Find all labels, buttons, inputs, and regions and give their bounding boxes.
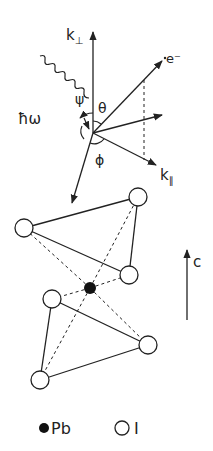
incidence-angle-arc [81, 126, 84, 139]
diagram-canvas: k⊥ e⁻ k∥ ħω ψ θ ϕ c Pb I [0, 0, 213, 451]
iodine-atom [15, 219, 33, 237]
legend-pb-symbol [39, 423, 49, 433]
psi-angle-arc [80, 113, 93, 118]
photon-energy-label: ħω [18, 110, 41, 128]
electron-label: e⁻ [166, 51, 181, 66]
iodine-atom [31, 371, 49, 389]
c-axis-label: c [193, 253, 201, 271]
iodine-atom [139, 336, 157, 354]
legend-i-symbol [115, 421, 129, 435]
k-perp-label: k⊥ [66, 26, 83, 46]
psi-label: ψ [75, 91, 84, 107]
legend: Pb I [39, 419, 139, 438]
electron-vector [93, 57, 166, 133]
phi-angle-arc [90, 139, 104, 144]
legend-i-label: I [134, 419, 139, 438]
phi-label: ϕ [95, 152, 104, 168]
k-parallel-label: k∥ [160, 166, 174, 187]
legend-pb-label: Pb [51, 419, 71, 438]
iodine-atom [43, 290, 61, 308]
iodine-atom [120, 266, 138, 284]
theta-label: θ [98, 100, 107, 116]
iodine-atom [129, 188, 147, 206]
lead-atom [84, 282, 96, 294]
polarization-vector [93, 115, 162, 133]
theta-angle-arc [93, 121, 101, 124]
